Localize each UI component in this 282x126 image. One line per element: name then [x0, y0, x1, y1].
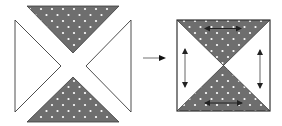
right-figure: [177, 20, 270, 111]
transition-arrow-icon: [143, 55, 166, 61]
left-figure: [15, 6, 131, 122]
diagram-canvas: [0, 0, 282, 126]
